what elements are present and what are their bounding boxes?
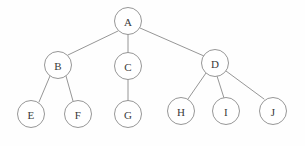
tree-edge-d-j	[226, 71, 264, 99]
node-label-j: J	[271, 106, 276, 118]
node-label-b: B	[54, 60, 62, 72]
tree-edge-d-h	[188, 73, 206, 99]
node-label-e: E	[28, 109, 35, 121]
tree-node-i[interactable]: I	[213, 98, 240, 125]
tree-node-a[interactable]: A	[115, 8, 142, 35]
tree-node-j[interactable]: J	[260, 98, 287, 125]
node-label-c: C	[124, 61, 132, 73]
tree-edge-a-d	[140, 28, 204, 56]
node-label-h: H	[177, 106, 185, 118]
tree-node-d[interactable]: D	[202, 50, 229, 77]
node-label-g: G	[124, 109, 132, 121]
node-label-i: I	[224, 106, 228, 118]
tree-diagram-canvas: ABCDEFGHIJ	[0, 0, 305, 146]
node-label-a: A	[124, 16, 132, 28]
tree-diagram-svg: ABCDEFGHIJ	[0, 0, 305, 146]
tree-edge-b-e	[39, 76, 50, 102]
edges-group	[39, 28, 264, 102]
node-label-d: D	[211, 58, 219, 70]
tree-edge-d-i	[217, 76, 224, 98]
tree-node-e[interactable]: E	[18, 101, 45, 128]
tree-node-g[interactable]: G	[115, 101, 142, 128]
node-label-f: F	[75, 109, 81, 121]
tree-node-b[interactable]: B	[45, 52, 72, 79]
tree-node-c[interactable]: C	[115, 53, 142, 80]
tree-edge-a-b	[68, 31, 118, 55]
tree-edge-b-f	[66, 76, 73, 101]
nodes-group: ABCDEFGHIJ	[18, 8, 287, 128]
tree-node-f[interactable]: F	[65, 101, 92, 128]
tree-node-h[interactable]: H	[168, 98, 195, 125]
